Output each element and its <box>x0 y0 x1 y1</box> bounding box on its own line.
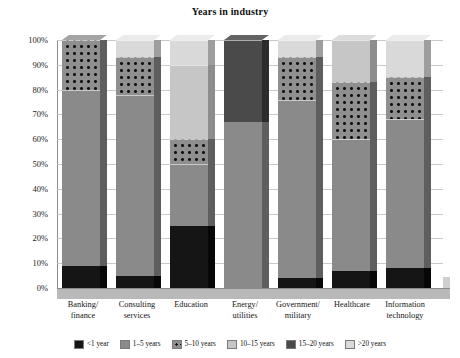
bar-segment-1-5-years <box>170 164 208 226</box>
bar-segment-10-15-years <box>170 65 208 139</box>
y-tick-label: 100% <box>2 36 48 45</box>
bar-segment-10-15-years <box>332 40 370 82</box>
bar-segment-15-20-years <box>224 40 262 122</box>
bar-segment-gt20-years <box>278 40 316 57</box>
bar-segment-5-10-years <box>116 57 154 94</box>
bar-segment-1-5-years <box>332 139 370 270</box>
y-tick-label: 40% <box>2 185 48 194</box>
legend-label-lt1-year: <1 year <box>87 340 109 348</box>
bar-segment-gt20-years <box>116 40 154 57</box>
bar-side-face <box>424 40 431 288</box>
y-tick-label: 90% <box>2 61 48 70</box>
x-label-education: Education <box>160 300 222 311</box>
x-axis-labels: Banking/finance Consultingservices Educa… <box>52 300 452 328</box>
bar-side-face <box>370 40 377 288</box>
bar-segment-5-10-years <box>170 139 208 164</box>
legend-swatch-lt1-year <box>74 340 84 349</box>
legend-label-5-10-years: 5–10 years <box>185 340 216 348</box>
legend-item-1-5-years[interactable]: 1–5 years <box>120 340 161 349</box>
chart-root: Years in industry 100% 90% 80% 70% 60% 5… <box>0 0 460 358</box>
bar-segment-lt1-year <box>62 266 100 288</box>
bar-energy-utilities[interactable] <box>224 40 262 288</box>
legend-item-5-10-years[interactable]: 5–10 years <box>172 340 216 349</box>
bar-segment-lt1-year <box>332 271 370 288</box>
bar-consulting-services[interactable] <box>116 40 154 288</box>
bar-segment-lt1-year <box>278 278 316 288</box>
plot-area <box>57 40 443 288</box>
legend-swatch-1-5-years <box>120 340 130 349</box>
legend-item-15-20-years[interactable]: 15–20 years <box>286 340 334 349</box>
bar-segment-1-5-years <box>62 90 100 266</box>
bar-segment-lt1-year <box>386 268 424 288</box>
x-label-consulting-services: Consultingservices <box>106 300 168 321</box>
bar-segment-lt1-year <box>170 226 208 288</box>
x-label-banking-finance: Banking/finance <box>52 300 114 321</box>
bar-segment-5-10-years <box>386 77 424 119</box>
legend-swatch-5-10-years <box>172 340 182 349</box>
bar-side-face <box>316 40 323 288</box>
bar-education[interactable] <box>170 40 208 288</box>
bar-side-face <box>262 40 269 288</box>
chart-title: Years in industry <box>0 6 460 17</box>
bar-banking-finance[interactable] <box>62 40 100 288</box>
y-tick-label: 50% <box>2 160 48 169</box>
x-label-information-technology: Informationtechnology <box>374 300 436 321</box>
chart-base-edge <box>57 288 450 289</box>
chart-base-side <box>443 277 450 288</box>
y-tick-label: 60% <box>2 135 48 144</box>
bar-segment-1-5-years <box>116 95 154 276</box>
x-label-government-military: Government/military <box>267 300 329 321</box>
y-tick-label: 70% <box>2 110 48 119</box>
chart-base-plate <box>57 288 450 299</box>
bar-segment-lt1-year <box>116 276 154 288</box>
y-tick-label: 80% <box>2 86 48 95</box>
y-axis-labels: 100% 90% 80% 70% 60% 50% 40% 30% 20% 10%… <box>0 40 52 288</box>
legend-swatch-15-20-years <box>286 340 296 349</box>
legend-item-gt20-years[interactable]: >20 years <box>345 340 386 349</box>
legend-swatch-10-15-years <box>227 340 237 349</box>
y-tick-label: 10% <box>2 259 48 268</box>
legend-item-lt1-year[interactable]: <1 year <box>74 340 109 349</box>
bar-side-face <box>208 40 215 288</box>
bar-segment-1-5-years <box>224 122 262 288</box>
bar-segment-1-5-years <box>386 119 424 268</box>
y-tick-label: 0% <box>2 284 48 293</box>
y-tick-label: 30% <box>2 210 48 219</box>
bar-information-technology[interactable] <box>386 40 424 288</box>
bar-segment-5-10-years <box>278 57 316 99</box>
bar-segment-gt20-years <box>386 40 424 77</box>
bar-segment-gt20-years <box>170 40 208 65</box>
chart-legend: <1 year 1–5 years 5–10 years 10–15 years… <box>0 336 460 352</box>
legend-label-15-20-years: 15–20 years <box>299 340 334 348</box>
legend-item-10-15-years[interactable]: 10–15 years <box>227 340 275 349</box>
legend-label-gt20-years: >20 years <box>358 340 386 348</box>
bar-side-face <box>100 40 107 288</box>
bar-segment-5-10-years <box>62 40 100 90</box>
legend-label-10-15-years: 10–15 years <box>240 340 275 348</box>
bar-healthcare[interactable] <box>332 40 370 288</box>
y-tick-label: 20% <box>2 234 48 243</box>
bar-segment-1-5-years <box>278 100 316 279</box>
bar-segment-5-10-years <box>332 82 370 139</box>
legend-label-1-5-years: 1–5 years <box>133 340 161 348</box>
legend-swatch-gt20-years <box>345 340 355 349</box>
bar-side-face <box>154 40 161 288</box>
bar-government-military[interactable] <box>278 40 316 288</box>
